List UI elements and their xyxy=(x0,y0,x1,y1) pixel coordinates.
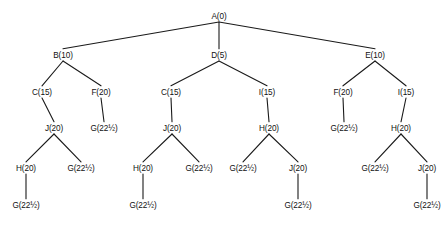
tree-edge xyxy=(401,134,427,162)
tree-node-label: H(20) xyxy=(133,164,153,173)
tree-node-label: G(22½) xyxy=(129,201,157,210)
tree-node-label: C(15) xyxy=(32,88,52,97)
tree-canvas: A(0)B(10)D(5)E(10)C(15)F(20)C(15)I(15)F(… xyxy=(0,0,444,232)
tree-node-label: G(22½) xyxy=(229,164,257,173)
tree-node-label: G(22½) xyxy=(284,201,312,210)
tree-edge xyxy=(63,22,219,49)
tree-node-label: G(22½) xyxy=(90,124,118,133)
tree-edge xyxy=(375,134,401,162)
tree-edge xyxy=(375,61,406,86)
tree-node-label: E(10) xyxy=(365,51,385,60)
tree-edge xyxy=(401,98,406,122)
tree-node-label: B(10) xyxy=(53,51,73,60)
search-tree-diagram: A(0)B(10)D(5)E(10)C(15)F(20)C(15)I(15)F(… xyxy=(0,0,444,232)
tree-edge xyxy=(172,134,199,162)
tree-node-label: G(22½) xyxy=(67,164,95,173)
tree-node-label: D(5) xyxy=(211,51,227,60)
tree-edge xyxy=(143,134,172,162)
tree-edge xyxy=(171,98,172,122)
tree-node-layer: A(0)B(10)D(5)E(10)C(15)F(20)C(15)I(15)F(… xyxy=(12,12,441,210)
tree-edge xyxy=(63,61,101,86)
tree-node-label: J(20) xyxy=(418,164,437,173)
tree-node-label: G(22½) xyxy=(330,124,358,133)
tree-edge xyxy=(219,22,375,49)
tree-node-label: F(20) xyxy=(333,88,352,97)
tree-edge xyxy=(101,98,104,122)
tree-node-label: J(20) xyxy=(45,124,64,133)
tree-node-label: H(20) xyxy=(16,164,36,173)
tree-edge xyxy=(26,134,54,162)
tree-node-label: F(20) xyxy=(91,88,110,97)
tree-edge xyxy=(171,61,219,86)
tree-edge xyxy=(343,61,375,86)
tree-edge xyxy=(269,134,298,162)
tree-edge xyxy=(243,134,269,162)
tree-node-label: I(15) xyxy=(259,88,276,97)
tree-edge xyxy=(54,134,81,162)
tree-node-label: G(22½) xyxy=(361,164,389,173)
tree-node-label: G(22½) xyxy=(185,164,213,173)
tree-node-label: H(20) xyxy=(259,124,279,133)
tree-node-label: J(20) xyxy=(163,124,182,133)
tree-edge xyxy=(42,98,54,122)
tree-edge xyxy=(219,61,267,86)
tree-node-label: G(22½) xyxy=(413,201,441,210)
tree-node-label: A(0) xyxy=(211,12,226,21)
tree-node-label: I(15) xyxy=(398,88,415,97)
tree-node-label: J(20) xyxy=(289,164,308,173)
tree-node-label: G(22½) xyxy=(12,201,40,210)
tree-edge xyxy=(267,98,269,122)
tree-node-label: C(15) xyxy=(161,88,181,97)
tree-edge xyxy=(343,98,344,122)
tree-node-label: H(20) xyxy=(391,124,411,133)
tree-edge xyxy=(42,61,63,86)
